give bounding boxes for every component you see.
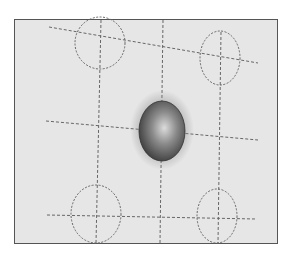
- ellipse-top-right: [200, 31, 240, 85]
- ellipse-bottom-left: [71, 185, 121, 243]
- grid-line-left: [96, 20, 101, 243]
- grid-line-top: [49, 27, 258, 63]
- grid-diagram: [0, 0, 296, 259]
- grid-line-bottom: [47, 215, 256, 219]
- ellipse-bottom-right: [197, 189, 237, 243]
- grid-line-right: [218, 32, 221, 243]
- center-spot: [139, 101, 185, 161]
